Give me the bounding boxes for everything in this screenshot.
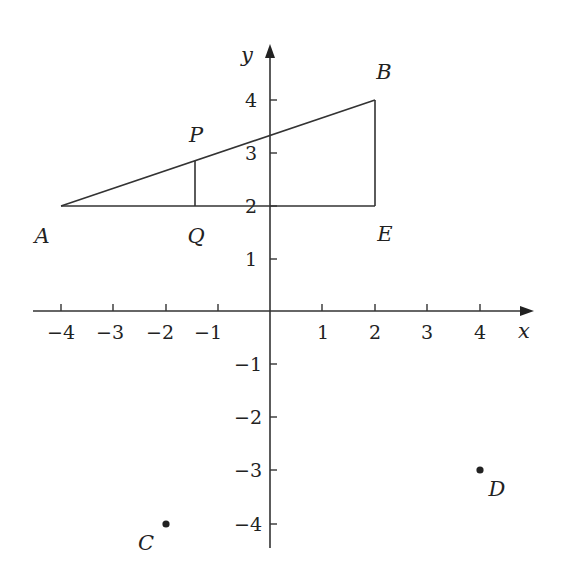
y-tick-label: −3 — [234, 459, 262, 481]
triangle-abe — [61, 100, 375, 206]
point-label-p: P — [188, 123, 204, 147]
diagram-canvas: −4 −3 −2 −1 1 2 3 4 x 4 3 2 1 −1 −2 −3 −… — [0, 0, 563, 586]
point-label-q: Q — [187, 224, 204, 248]
y-tick-label: 4 — [245, 89, 257, 111]
y-axis-label: y — [240, 43, 254, 67]
x-tick-label: −3 — [96, 321, 124, 343]
point-label-e: E — [376, 222, 392, 246]
y-tick-label: 1 — [245, 248, 257, 270]
x-tick-label: −1 — [194, 321, 222, 343]
y-tick-label: −4 — [234, 513, 262, 535]
y-tick-label: −1 — [234, 353, 262, 375]
x-axis-label: x — [518, 319, 530, 343]
x-tick-label: 3 — [421, 321, 433, 343]
x-axis-arrow-icon — [520, 306, 534, 316]
point-label-b: B — [375, 60, 391, 84]
point-label-c: C — [138, 531, 154, 555]
point-c-dot — [162, 520, 169, 527]
point-d-dot — [476, 466, 483, 473]
point-label-d: D — [488, 477, 506, 501]
y-axis-arrow-icon — [265, 44, 275, 58]
x-tick-label: 1 — [317, 321, 329, 343]
segment-ab — [61, 100, 375, 206]
x-tick-label: −2 — [146, 321, 174, 343]
y-tick-label: −2 — [234, 406, 262, 428]
x-tick-label: 2 — [369, 321, 381, 343]
coordinate-diagram: −4 −3 −2 −1 1 2 3 4 x 4 3 2 1 −1 −2 −3 −… — [0, 0, 563, 586]
x-tick-label: 4 — [474, 321, 486, 343]
point-label-a: A — [32, 224, 49, 248]
y-ticks — [270, 100, 277, 524]
y-tick-label: 3 — [245, 142, 257, 164]
x-tick-label: −4 — [47, 321, 75, 343]
